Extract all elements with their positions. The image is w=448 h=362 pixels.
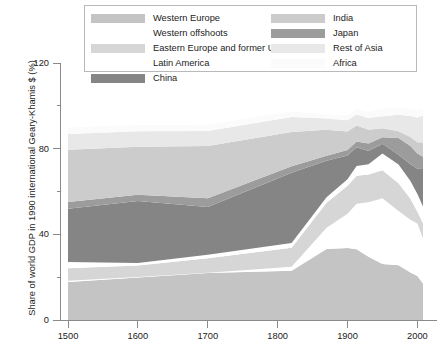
stacked-areas — [68, 108, 423, 320]
chart-figure: Western EuropeWestern offshootsEastern E… — [0, 0, 448, 362]
plot-area — [0, 0, 448, 362]
